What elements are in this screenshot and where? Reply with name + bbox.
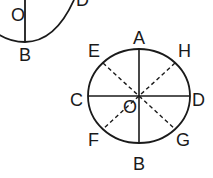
label-e: E: [88, 41, 100, 61]
label-o: O: [123, 97, 137, 117]
label-f: F: [88, 130, 99, 150]
circle-diagram: O B D A B C D E H F G O: [0, 0, 213, 178]
label-g: G: [176, 130, 190, 150]
partial-right-label: D: [76, 0, 89, 10]
label-d: D: [192, 90, 205, 110]
main-circle: A B C D E H F G O: [70, 28, 205, 174]
partial-center-label: O: [11, 5, 25, 25]
label-a: A: [133, 28, 145, 48]
label-b: B: [133, 154, 145, 174]
label-c: C: [70, 90, 83, 110]
label-h: H: [178, 41, 191, 61]
partial-bottom-label: B: [19, 45, 31, 65]
partial-circle: O B D: [0, 0, 89, 65]
